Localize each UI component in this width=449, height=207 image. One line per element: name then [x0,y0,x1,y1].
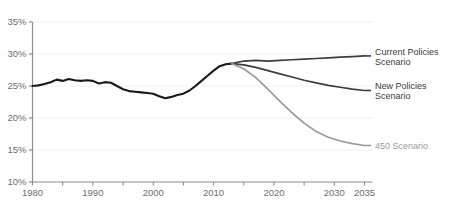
series-line [232,64,365,146]
x-axis-label: 2030 [324,187,345,198]
legend-label-line2[interactable]: Scenario [375,91,411,101]
x-axis-label: 2035 [354,187,375,198]
legend-label[interactable]: 450 Scenario [375,141,428,151]
y-axis-label: 20% [7,112,27,123]
data-series-group [33,56,365,146]
y-axis-label: 35% [7,16,27,27]
chart-plot-area: 10%15%20%25%30%35% 198019902000201020202… [0,0,449,207]
x-axis-label: 2020 [263,187,284,198]
y-axis-labels: 10%15%20%25%30%35% [7,16,27,187]
x-axis-label: 2010 [203,187,224,198]
legend-label-line2[interactable]: Scenario [375,57,411,67]
y-axis-label: 10% [7,176,27,187]
legend-group: Current PoliciesScenarioNew PoliciesScen… [365,47,439,151]
x-axis-label: 1990 [82,187,103,198]
x-axis-label: 1980 [22,187,43,198]
legend-label[interactable]: Current Policies [375,47,439,57]
y-axis-label: 15% [7,144,27,155]
series-line [33,64,232,99]
x-axis-labels: 1980199020002010202020302035 [22,187,375,198]
gridlines-group [33,22,373,150]
axes-group [33,22,373,182]
chart-container: 10%15%20%25%30%35% 198019902000201020202… [0,0,449,207]
y-axis-label: 30% [7,48,27,59]
y-axis-label: 25% [7,80,27,91]
x-axis-label: 2000 [143,187,164,198]
series-line [232,56,365,64]
legend-label[interactable]: New Policies [375,81,427,91]
